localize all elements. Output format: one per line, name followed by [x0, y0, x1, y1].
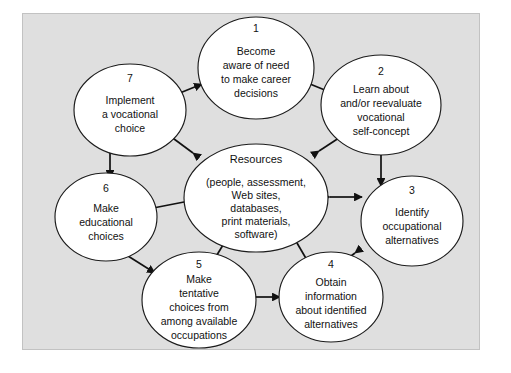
node-5-line-4: among available — [161, 315, 238, 327]
node-2-number: 2 — [378, 65, 384, 77]
node-4[interactable]: 4 Obtain information about identified al… — [279, 252, 383, 342]
node-4-line-1: Obtain — [316, 276, 347, 288]
node-1-line-3: to make career — [221, 73, 292, 85]
node-7-number: 7 — [127, 72, 133, 84]
node-3-line-2: occupational — [383, 220, 442, 232]
hub-title: Resources — [230, 153, 283, 165]
hub-line-5: software) — [234, 228, 277, 240]
node-5-line-2: tentative — [179, 287, 219, 299]
node-4-line-2: information — [305, 290, 357, 302]
node-3-number: 3 — [409, 184, 415, 196]
node-5-number: 5 — [196, 258, 202, 270]
node-4-line-4: alternatives — [304, 318, 358, 330]
node-4-line-3: about identified — [295, 304, 366, 316]
node-5[interactable]: 5 Make tentative choices from among avai… — [142, 252, 256, 348]
node-5-line-5: occupations — [171, 329, 227, 341]
node-7[interactable]: 7 Implement a vocational choice — [74, 64, 186, 156]
node-6-number: 6 — [103, 182, 109, 194]
node-5-line-3: choices from — [169, 301, 229, 313]
hub-node-resources[interactable]: Resources (people, assessment, Web sites… — [184, 144, 328, 252]
node-1[interactable]: 1 Become aware of need to make career de… — [198, 17, 314, 119]
node-1-line-4: decisions — [234, 87, 278, 99]
node-1-number: 1 — [253, 22, 259, 34]
node-2-line-3: vocational — [357, 111, 404, 123]
node-6[interactable]: 6 Make educational choices — [55, 173, 157, 261]
node-1-line-1: Become — [237, 45, 276, 57]
node-6-line-1: Make — [93, 202, 119, 214]
node-7-line-1: Implement — [105, 94, 154, 106]
node-3-line-1: Identify — [395, 206, 430, 218]
career-decision-cycle-diagram: Resources (people, assessment, Web sites… — [0, 0, 511, 373]
node-4-number: 4 — [328, 258, 334, 270]
node-2[interactable]: 2 Learn about and/or reevaluate vocation… — [321, 55, 441, 155]
node-2-line-4: self-concept — [353, 125, 410, 137]
hub-line-2: Web sites, — [232, 189, 281, 201]
node-2-line-2: and/or reevaluate — [340, 97, 422, 109]
node-2-line-1: Learn about — [353, 83, 409, 95]
connector-5-6 — [128, 256, 155, 273]
node-5-line-1: Make — [186, 273, 212, 285]
node-3-line-3: alternatives — [385, 234, 439, 246]
hub-line-3: databases, — [230, 202, 281, 214]
hub-line-1: (people, assessment, — [206, 176, 306, 188]
node-6-line-2: educational — [79, 216, 133, 228]
node-7-line-2: a vocational — [102, 108, 158, 120]
node-3[interactable]: 3 Identify occupational alternatives — [361, 176, 463, 266]
node-7-line-3: choice — [115, 122, 146, 134]
diagram-page: Resources (people, assessment, Web sites… — [0, 0, 511, 373]
node-6-line-3: choices — [88, 230, 124, 242]
hub-line-4: print materials, — [222, 215, 291, 227]
node-1-line-2: aware of need — [223, 59, 290, 71]
